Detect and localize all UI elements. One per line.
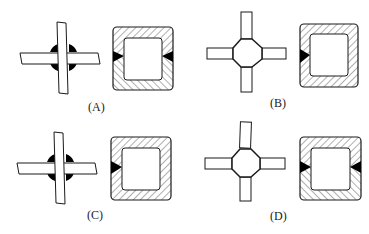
option-a-label: (A) (88, 100, 105, 115)
diamond-node (233, 39, 262, 67)
option-d-label: (D) (270, 209, 287, 224)
diamond-node (232, 149, 260, 177)
vertical-plate (54, 132, 65, 204)
option-d-diamond-joint (205, 122, 285, 201)
fillet-weld-icon (50, 44, 58, 52)
option-b-label: (B) (270, 96, 286, 111)
option-d-section (300, 137, 361, 200)
vertical-plate (57, 22, 68, 94)
fillet-weld-icon (47, 154, 55, 162)
option-a-cross-joint (20, 22, 100, 94)
option-b-diamond-joint (207, 12, 286, 92)
option-c-section (111, 137, 171, 200)
option-c-cross-joint (17, 132, 97, 204)
option-b-section (300, 24, 358, 87)
fillet-weld-icon (66, 154, 74, 162)
fillet-weld-icon (69, 44, 77, 52)
option-a-section (113, 27, 173, 90)
figure-canvas (0, 0, 369, 234)
option-c-label: (C) (87, 208, 103, 223)
